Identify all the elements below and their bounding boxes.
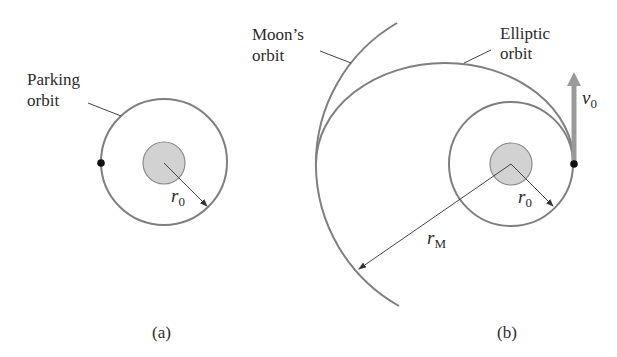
panel-a: Parking orbit r0 (a): [27, 70, 227, 342]
v0-label: v0: [582, 87, 597, 111]
r0-label-b: r0: [518, 186, 532, 210]
parking-orbit-leader-line: [88, 103, 121, 116]
moon-orbit-label-line1: Moon’s: [252, 25, 304, 44]
moon-orbit-arc: [316, 23, 399, 306]
caption-a: (a): [152, 323, 171, 342]
panel-b: Moon’s orbit Elliptic orbit v0 r0 rM (b): [252, 23, 597, 342]
elliptic-orbit-label-line1: Elliptic: [500, 24, 551, 43]
moon-orbit-label-line2: orbit: [252, 46, 284, 65]
orbit-diagram: Parking orbit r0 (a) Moon’s orbit Ellipt…: [0, 0, 617, 357]
elliptic-orbit-label-line2: orbit: [500, 44, 532, 63]
parking-orbit-label-line1: Parking: [27, 70, 80, 89]
elliptic-orbit-leader-line: [464, 50, 491, 63]
elliptic-orbit-arc: [316, 63, 574, 164]
rM-label: rM: [427, 227, 446, 251]
moon-orbit-leader-line: [320, 51, 351, 63]
spacecraft-dot-b: [570, 160, 578, 168]
r0-label-a: r0: [171, 185, 185, 209]
rM-radius-arrow: [359, 164, 511, 269]
spacecraft-dot: [97, 159, 105, 167]
parking-orbit-label-line2: orbit: [27, 91, 59, 110]
velocity-arrow-head-icon: [567, 72, 581, 86]
caption-b: (b): [497, 323, 517, 342]
